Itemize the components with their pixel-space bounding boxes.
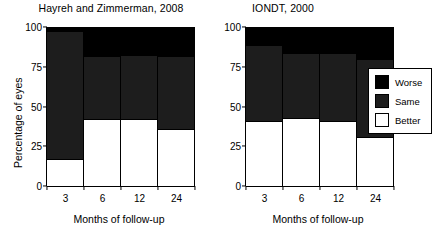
- plot-area-left: 100 75 50 25 0 3 6 12 24: [46, 27, 195, 186]
- bar-segment-same: [121, 56, 157, 120]
- bar-segment-worse: [320, 27, 356, 54]
- legend-swatch-worse-icon: [375, 75, 389, 89]
- panel-title-right: IONDT, 2000: [193, 2, 373, 14]
- bar-segment-better: [158, 129, 194, 186]
- bar-6-months: [84, 27, 121, 186]
- x-tick-mark-edge3-right: [356, 186, 357, 190]
- bar-segment-same: [158, 57, 194, 129]
- x-tick-label-3-left: 3: [63, 186, 69, 204]
- legend-item-better: Better: [375, 113, 420, 127]
- bar-segment-same: [84, 57, 120, 119]
- bar-group-left: [47, 27, 195, 186]
- bar-segment-better: [84, 119, 120, 186]
- bar-segment-better: [246, 121, 282, 186]
- bar-24-months: [158, 27, 195, 186]
- bar-segment-worse: [246, 27, 282, 46]
- x-axis-label-right: Months of follow-up: [243, 213, 393, 225]
- bar-segment-same: [283, 54, 319, 118]
- bar-3-months: [246, 27, 283, 186]
- bar-segment-worse: [121, 27, 157, 56]
- bar-12-months: [320, 27, 357, 186]
- panel-title-left: Hayreh and Zimmerman, 2008: [2, 2, 220, 14]
- x-tick-label-24-right: 24: [370, 186, 381, 204]
- legend-label-better: Better: [395, 115, 420, 126]
- x-tick-mark-edge4-left: [194, 186, 195, 190]
- x-tick-label-3-right: 3: [262, 186, 268, 204]
- bar-segment-same: [320, 54, 356, 121]
- legend-item-worse: Worse: [375, 75, 422, 89]
- stacked-bar-chart-figure: Hayreh and Zimmerman, 2008 Percentage of…: [0, 0, 438, 241]
- legend-label-worse: Worse: [395, 77, 422, 88]
- x-tick-mark-edge1-right: [282, 186, 283, 190]
- x-tick-mark-edge2-right: [319, 186, 320, 190]
- bar-segment-better: [283, 118, 319, 186]
- bar-segment-same: [47, 32, 83, 159]
- bar-segment-worse: [357, 27, 393, 60]
- x-tick-mark-edge4-right: [393, 186, 394, 190]
- x-tick-mark-edge2-left: [120, 186, 121, 190]
- x-tick-mark-edge1-left: [83, 186, 84, 190]
- bar-segment-worse: [47, 27, 83, 32]
- panel-iondt: IONDT, 2000 100 75 50 25 0 3 6 12 24 Mon…: [205, 0, 385, 241]
- legend-swatch-better-icon: [375, 113, 389, 127]
- bar-segment-worse: [158, 27, 194, 57]
- x-tick-mark-edge0-right: [245, 186, 246, 190]
- bar-3-months: [47, 27, 84, 186]
- legend-label-same: Same: [395, 96, 420, 107]
- bar-12-months: [121, 27, 158, 186]
- x-axis-label-left: Months of follow-up: [44, 213, 194, 225]
- bar-segment-better: [121, 119, 157, 186]
- bar-segment-worse: [283, 27, 319, 54]
- legend-item-same: Same: [375, 94, 420, 108]
- x-tick-label-12-right: 12: [333, 186, 344, 204]
- x-tick-mark-edge0-left: [46, 186, 47, 190]
- bar-segment-better: [357, 137, 393, 186]
- x-tick-label-12-left: 12: [134, 186, 145, 204]
- legend-swatch-same-icon: [375, 94, 389, 108]
- x-tick-label-6-left: 6: [100, 186, 106, 204]
- x-tick-label-6-right: 6: [299, 186, 305, 204]
- chart-legend: Worse Same Better: [368, 68, 432, 134]
- bar-segment-worse: [84, 27, 120, 57]
- bar-segment-same: [246, 46, 282, 121]
- bar-6-months: [283, 27, 320, 186]
- x-tick-label-24-left: 24: [171, 186, 182, 204]
- panel-hayreh-zimmerman: Hayreh and Zimmerman, 2008 Percentage of…: [0, 0, 218, 241]
- bar-segment-better: [47, 159, 83, 186]
- x-tick-mark-edge3-left: [157, 186, 158, 190]
- bar-segment-better: [320, 121, 356, 186]
- y-axis-label-left: Percentage of eyes: [12, 78, 24, 168]
